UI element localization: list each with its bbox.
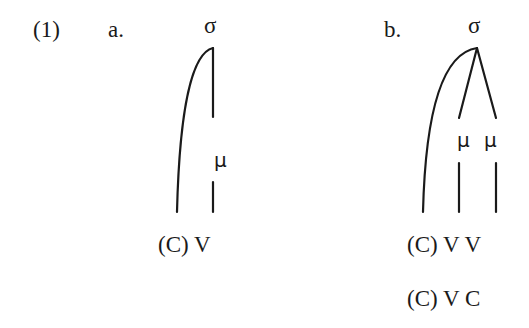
association-line-b-sigma-mu1	[459, 48, 477, 118]
tree-lines	[0, 0, 529, 328]
association-line-b-onset	[423, 48, 477, 212]
association-line-b-sigma-mu2	[477, 48, 496, 118]
association-line-a-onset	[177, 48, 213, 212]
